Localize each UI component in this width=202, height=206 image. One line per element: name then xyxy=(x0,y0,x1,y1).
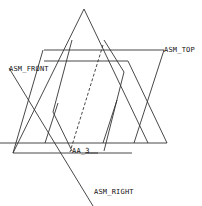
label-asm-right[interactable]: ASM_RIGHT xyxy=(94,188,134,196)
asm-right-triangle-up xyxy=(13,9,148,153)
asm-right-triangle-down xyxy=(9,68,93,206)
label-asm-front[interactable]: ASM_FRONT xyxy=(9,65,49,73)
model-viewport[interactable]: ASM_FRONT ASM_TOP ASM_RIGHT AA_3 xyxy=(0,0,202,206)
label-axis-aa3[interactable]: AA_3 xyxy=(72,147,90,155)
asm-front-edge-right xyxy=(128,61,148,103)
long-diagonal-2 xyxy=(103,100,117,143)
datum-geometry xyxy=(0,0,202,206)
label-asm-top[interactable]: ASM_TOP xyxy=(164,46,195,54)
hexagon-left xyxy=(53,40,72,151)
asm-top-edge-right xyxy=(134,50,164,143)
asm-top-triangle xyxy=(148,103,167,143)
